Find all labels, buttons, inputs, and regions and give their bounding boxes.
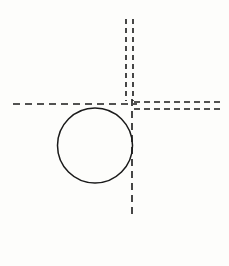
- drawing-canvas: [0, 0, 229, 266]
- canvas-background: [0, 0, 229, 266]
- technical-drawing: [0, 0, 229, 266]
